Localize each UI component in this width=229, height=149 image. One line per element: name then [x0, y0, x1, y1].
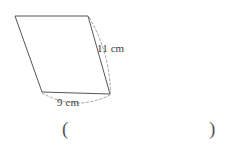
- side-length-label-right: 11 cm: [97, 43, 124, 54]
- answer-paren-close-icon: ): [209, 116, 215, 142]
- answer-paren-open-icon: (: [62, 116, 68, 142]
- side-length-label-bottom: 9 cm: [57, 97, 79, 108]
- parallelogram-outline: [15, 16, 110, 94]
- answer-blank: ( ): [0, 116, 229, 142]
- answer-input[interactable]: [74, 118, 206, 140]
